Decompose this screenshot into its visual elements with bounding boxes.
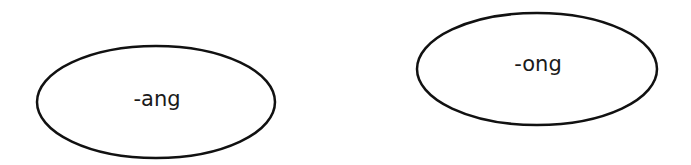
node-label-ang: -ang — [133, 87, 180, 111]
diagram-canvas — [0, 0, 691, 165]
node-label-ong: -ong — [514, 52, 561, 76]
